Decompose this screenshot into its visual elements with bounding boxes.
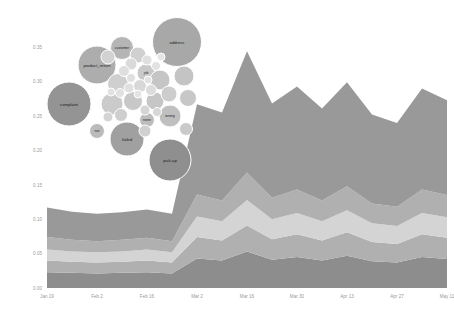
x-tick-label: Jan 19 [40,294,54,299]
y-tick-label: 0.25 [33,114,42,119]
bubble-unlabeled[interactable] [116,89,125,98]
bubble-label: address [170,40,185,45]
x-axis-ticks: Jan 19Feb 2Feb 16Mar 2Mar 16Mar 30Apr 13… [40,294,454,299]
bubble-unlabeled[interactable] [153,108,162,117]
y-tick-label: 0.35 [33,45,42,50]
y-tick-label: 0.20 [33,148,42,153]
bubble-label: pick-up [163,158,177,163]
bubble-unlabeled[interactable] [101,50,115,64]
bubble-unlabeled[interactable] [103,112,113,122]
y-tick-label: 0.30 [33,79,42,84]
bubble-unlabeled[interactable] [180,90,197,107]
bubble-unlabeled[interactable] [140,105,150,115]
bubble-unlabeled[interactable] [146,85,157,96]
bubble-unlabeled[interactable] [161,86,177,102]
bubble-unlabeled[interactable] [115,109,128,122]
bubble-label: failed [122,137,133,142]
bubble-label: complaint [60,102,79,107]
bubble-unlabeled[interactable] [139,125,151,137]
bubble-unlabeled[interactable] [124,83,134,93]
y-tick-label: 0.00 [33,286,42,291]
x-tick-label: Mar 30 [290,294,305,299]
bubble-unlabeled[interactable] [107,88,115,96]
bubble-unlabeled[interactable] [152,62,161,71]
bubble-unlabeled[interactable] [144,76,152,84]
bubble-label: none [143,118,151,122]
y-tick-label: 0.10 [33,217,42,222]
bubble-label: customer [115,46,130,50]
bubble-label: job [143,71,149,75]
bubble-unlabeled[interactable] [174,66,194,86]
chart-canvas: 0.000.050.100.150.200.250.300.35 Jan 19F… [0,0,454,321]
bubble-unlabeled[interactable] [134,90,142,98]
x-tick-label: May 11 [440,294,454,299]
bubble-unlabeled[interactable] [157,53,165,61]
x-tick-label: Apr 27 [390,294,404,299]
x-tick-label: Apr 13 [340,294,354,299]
bubble-label: not [95,129,100,133]
bubble-label: wrong [165,114,175,118]
x-tick-label: Mar 2 [191,294,203,299]
x-tick-label: Feb 2 [91,294,103,299]
bubble-unlabeled[interactable] [142,55,152,65]
stacked-area-series [47,51,447,288]
composite-chart: 0.000.050.100.150.200.250.300.35 Jan 19F… [0,0,454,321]
y-tick-label: 0.15 [33,183,42,188]
y-tick-label: 0.05 [33,251,42,256]
y-axis-ticks: 0.000.050.100.150.200.250.300.35 [33,45,42,291]
x-tick-label: Mar 16 [240,294,255,299]
x-tick-label: Feb 16 [140,294,155,299]
bubble-unlabeled[interactable] [127,74,136,83]
bubble-unlabeled[interactable] [180,123,193,136]
bubble-chart-overlay: addressproduct_returncomplaintpick-upfai… [47,18,202,182]
